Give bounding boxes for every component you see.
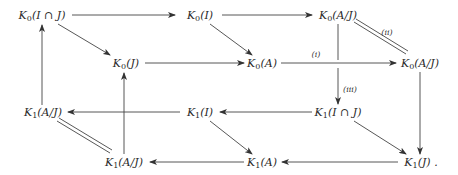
edge-label-iii: (iii) <box>343 85 357 94</box>
arrow-k0i-to-k0a <box>210 24 252 55</box>
node-k0-a: K0(A) <box>247 58 277 71</box>
node-argument: (J) . <box>418 156 438 169</box>
node-symbol: K <box>113 57 121 70</box>
node-k1-j: K1(J) . <box>404 157 437 170</box>
node-argument: (I) <box>200 9 213 22</box>
node-symbol: K <box>105 156 113 169</box>
arrow-k0ij-to-k0j <box>58 24 110 55</box>
equals-k1aj <box>57 121 110 153</box>
node-k0-aj-top: K0(A/J) <box>319 10 357 23</box>
node-argument: (A/J) <box>414 57 439 70</box>
node-symbol: K <box>187 106 195 119</box>
node-k1-ij: K1(I ∩ J) <box>315 107 362 120</box>
node-symbol: K <box>401 57 409 70</box>
node-argument: (I ∩ J) <box>328 106 362 119</box>
node-symbol: K <box>247 57 255 70</box>
node-argument: (I) <box>200 106 213 119</box>
node-symbol: K <box>187 9 195 22</box>
node-symbol: K <box>24 106 32 119</box>
edge-label-ii: (ii) <box>381 28 392 37</box>
node-symbol: K <box>404 156 412 169</box>
node-k1-aj-left: K1(A/J) <box>24 107 62 120</box>
node-k0-aj-right: K0(A/J) <box>401 58 439 71</box>
node-argument: (A) <box>260 57 277 70</box>
diagram-edges <box>0 0 458 175</box>
node-symbol: K <box>319 9 327 22</box>
node-symbol: K <box>247 156 255 169</box>
node-argument: (J) <box>126 57 139 70</box>
node-argument: (A) <box>260 156 277 169</box>
node-symbol: K <box>315 106 323 119</box>
node-argument: (A/J) <box>332 9 357 22</box>
arrow-k1ij-to-k1j <box>354 121 406 154</box>
node-argument: (A/J) <box>37 106 62 119</box>
node-k1-a: K1(A) <box>247 157 277 170</box>
equals-k0aj <box>354 22 406 54</box>
node-k0-j: K0(J) <box>113 58 139 71</box>
node-k1-aj-bottom: K1(A/J) <box>105 157 143 170</box>
node-k0-i: K0(I) <box>187 10 213 23</box>
node-k1-i: K1(I) <box>187 107 213 120</box>
arrow-k1i-to-k1a <box>210 121 252 154</box>
node-k0-ij: K0(I ∩ J) <box>19 10 66 23</box>
edge-label-i: (i) <box>312 50 321 59</box>
node-symbol: K <box>19 9 27 22</box>
node-argument: (A/J) <box>118 156 143 169</box>
node-argument: (I ∩ J) <box>32 9 66 22</box>
